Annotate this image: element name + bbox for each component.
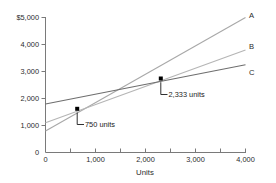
series-label-c: C — [249, 68, 255, 77]
x-tick-label-2000: 2,000 — [136, 155, 155, 164]
data-point-marker-2333 — [159, 77, 163, 81]
chart-screenshot: $5,000 4,000 3,000 2,000 1,000 0 0 1,000… — [0, 0, 276, 183]
x-tick-label-4000: 4,000 — [236, 155, 255, 164]
y-tick-label-5000: $5,000 — [16, 13, 39, 22]
line-chart: $5,000 4,000 3,000 2,000 1,000 0 0 1,000… — [0, 0, 276, 183]
x-tick-label-1000: 1,000 — [86, 155, 105, 164]
annotation-label-2333: 2,333 units — [169, 90, 205, 99]
x-tick-label-3000: 3,000 — [186, 155, 205, 164]
y-tick-label-4000: 4,000 — [21, 40, 40, 49]
y-tick-label-0: 0 — [35, 148, 39, 157]
y-tick-label-2000: 2,000 — [21, 94, 40, 103]
y-tick-label-1000: 1,000 — [21, 121, 40, 130]
x-tick-label-0: 0 — [43, 155, 47, 164]
annotation-label-750: 750 units — [85, 120, 115, 129]
y-tick-label-3000: 3,000 — [21, 67, 40, 76]
data-point-marker-750 — [75, 107, 79, 111]
x-axis-title: Units — [136, 168, 154, 177]
series-label-b: B — [249, 42, 254, 51]
